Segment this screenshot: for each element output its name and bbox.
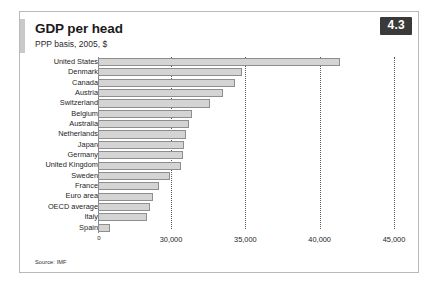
category-label: Euro area — [66, 192, 98, 199]
bar — [98, 193, 153, 201]
category-label: OECD average — [48, 203, 98, 210]
category-label: Switzerland — [60, 99, 98, 106]
title-accent-bar — [20, 19, 25, 53]
category-label: United States — [54, 58, 98, 65]
category-label: Germany — [68, 151, 98, 158]
bar — [98, 110, 192, 118]
bar — [98, 89, 223, 97]
x-tick-label: 0 — [97, 235, 100, 241]
source-note: Source: IMF — [35, 259, 67, 265]
gridline-45000 — [394, 57, 395, 229]
x-tick-label: 35,000 — [234, 235, 257, 244]
chapter-badge: 4.3 — [380, 17, 412, 35]
chart-title: GDP per head — [35, 21, 123, 36]
bar — [98, 99, 210, 107]
category-label: Spain — [79, 224, 98, 231]
bar — [98, 58, 340, 66]
chart-figure: 4.3 GDP per head PPP basis, 2005, $ Unit… — [19, 11, 419, 273]
category-label: Japan — [78, 141, 98, 148]
bar — [98, 120, 189, 128]
chart-subtitle: PPP basis, 2005, $ — [35, 39, 107, 49]
x-tick-label: 45,000 — [383, 235, 406, 244]
category-axis: United StatesDenmarkCanadaAustriaSwitzer… — [20, 57, 98, 233]
bar — [98, 68, 242, 76]
bar — [98, 79, 235, 87]
category-label: United Kingdom — [45, 161, 98, 168]
x-tick-label: 40,000 — [308, 235, 331, 244]
category-label: Belgium — [71, 110, 98, 117]
x-tick-label: 30,000 — [160, 235, 183, 244]
bar — [98, 162, 181, 170]
plot-area: United StatesDenmarkCanadaAustriaSwitzer… — [20, 57, 420, 247]
gridline-35000 — [245, 57, 246, 229]
category-label: Canada — [72, 79, 98, 86]
bar — [98, 203, 150, 211]
bars-and-grid: 030,00035,00040,00045,000 — [98, 57, 410, 233]
bar — [98, 182, 159, 190]
category-label: Sweden — [71, 172, 98, 179]
bar — [98, 141, 184, 149]
category-label: France — [75, 182, 98, 189]
bar — [98, 224, 110, 232]
category-label: Austria — [75, 89, 98, 96]
bar — [98, 130, 186, 138]
category-label: Denmark — [68, 68, 98, 75]
bar — [98, 213, 147, 221]
bar — [98, 151, 183, 159]
category-label: Netherlands — [58, 130, 98, 137]
bar — [98, 172, 170, 180]
category-label: Italy — [84, 213, 98, 220]
category-label: Australia — [69, 120, 98, 127]
gridline-40000 — [320, 57, 321, 229]
